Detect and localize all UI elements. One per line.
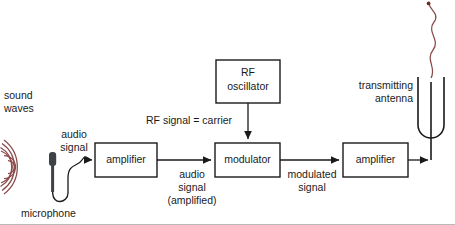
bottom-divider bbox=[0, 224, 455, 225]
diagram-canvas: sound waves microphone audio signal ampl… bbox=[0, 0, 455, 225]
microphone-icon bbox=[49, 152, 68, 202]
block-label-rf-oscillator-line1: RF bbox=[216, 66, 280, 79]
label-transmitting-antenna: transmitting antenna bbox=[333, 79, 413, 105]
transmitting-antenna-icon bbox=[418, 77, 444, 160]
label-rf-signal-carrier: RF signal = carrier bbox=[146, 114, 232, 127]
block-label-amplifier-1: amplifier bbox=[95, 153, 157, 166]
radio-wave-icon bbox=[429, 4, 436, 78]
sound-waves-icon bbox=[1, 140, 18, 194]
radio-wave-tip bbox=[427, 2, 431, 6]
label-audio-signal-amplified: audio signal (amplified) bbox=[158, 168, 226, 207]
label-sound-waves: sound waves bbox=[4, 89, 34, 115]
block-label-amplifier-2: amplifier bbox=[343, 153, 408, 166]
label-microphone: microphone bbox=[21, 207, 76, 220]
block-label-rf-oscillator-line2: oscillator bbox=[216, 80, 280, 93]
diagram-graphics bbox=[0, 0, 455, 225]
label-audio-signal: audio signal bbox=[47, 128, 101, 154]
wire-microphone-to-amplifier bbox=[68, 157, 92, 178]
block-label-modulator: modulator bbox=[215, 153, 280, 166]
label-modulated-signal: modulated signal bbox=[281, 168, 343, 194]
